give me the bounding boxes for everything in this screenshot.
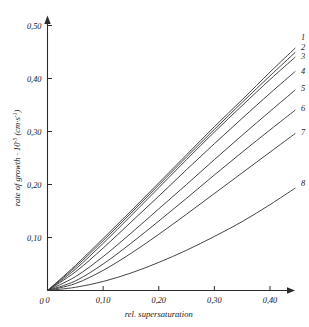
curve-4 [48,72,296,291]
x-tick-label: 0 [45,296,50,305]
curve-3 [48,57,296,290]
curve-label-5: 5 [301,84,305,93]
axes [44,16,295,294]
y-tick-label: 0,50 [27,22,42,31]
curve-8 [48,188,296,290]
y-axis-title-main: rate of growth · 10 [12,142,22,207]
y-axis-arrow [44,16,50,25]
curve-label-2: 2 [301,43,305,52]
y-tick-label: 0,30 [27,128,42,137]
curve-label-1: 1 [301,33,305,42]
curve-2 [48,53,296,291]
curve-label-3: 3 [300,52,305,61]
curve-label-6: 6 [301,104,306,113]
tick-labels: 00,100,200,300,4000,100,200,300,400,50 [27,22,278,306]
curve-labels: 12345678 [300,33,306,188]
y-axis-title: rate of growth · 10-5 (cm·s-1) [12,110,22,207]
y-tick-label: 0,20 [27,181,42,190]
curve-1 [48,48,296,290]
y-axis-title-unit-close: ) [12,110,22,114]
axis-titles: rel. supersaturationrate of growth · 10-… [12,110,193,319]
x-tick-label: 0,30 [207,296,222,305]
x-tick-label: 0,20 [151,296,166,305]
y-tick-label: 0,10 [27,234,42,243]
x-tick-label: 0,10 [96,296,111,305]
curve-6 [48,110,296,290]
y-tick-label-origin: 0 [39,297,44,306]
growth-rate-chart: 00,100,200,300,4000,100,200,300,400,50 1… [0,0,309,327]
curve-label-8: 8 [301,179,306,188]
x-axis-title: rel. supersaturation [125,309,193,319]
chart-canvas: 00,100,200,300,4000,100,200,300,400,50 1… [0,0,309,327]
y-tick-label: 0,40 [27,75,42,84]
x-axis-arrow [287,287,295,293]
y-axis-title-unit: (cm·s [12,117,22,138]
curve-label-4: 4 [301,67,305,76]
x-tick-label: 0,40 [263,296,278,305]
data-curves [48,48,296,290]
curve-label-7: 7 [301,128,306,137]
axis-ticks [48,26,271,291]
